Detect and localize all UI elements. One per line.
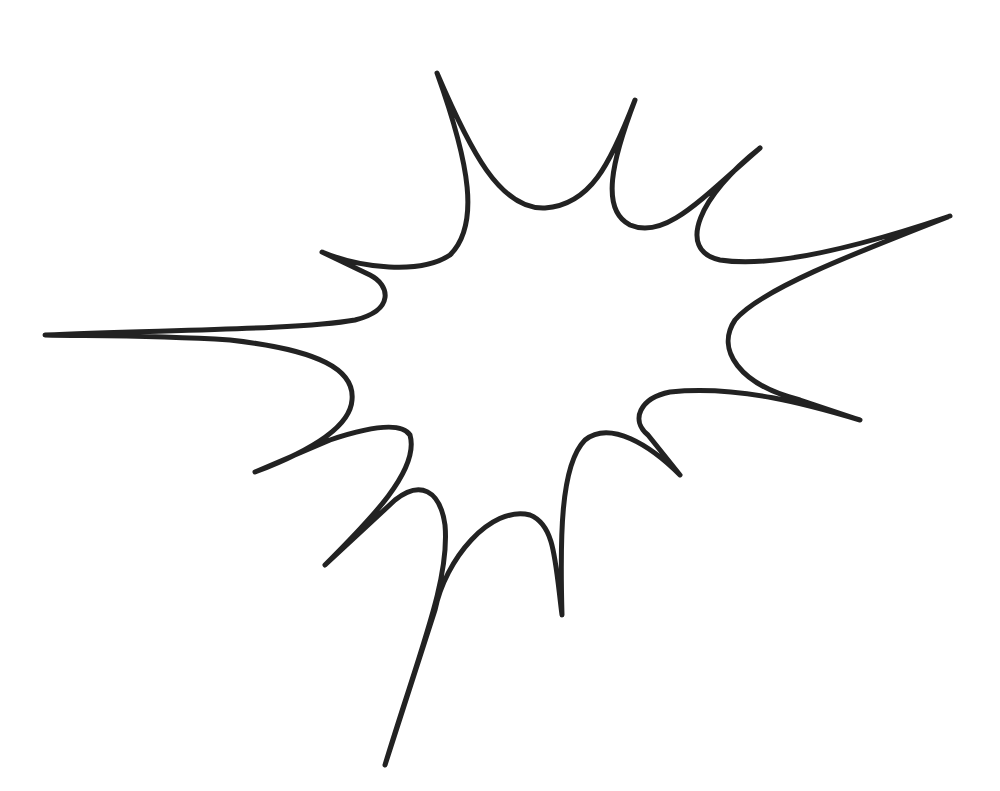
burst-outline (45, 73, 950, 765)
burst-canvas (0, 0, 1000, 791)
explosion-burst-icon (0, 0, 1000, 791)
